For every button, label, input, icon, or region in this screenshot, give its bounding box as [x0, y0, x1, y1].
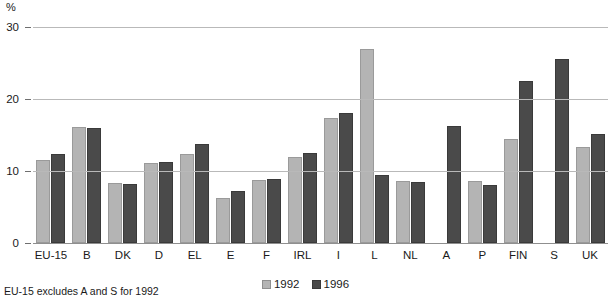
bar-F-1992: [252, 180, 266, 243]
gridline-10: [33, 171, 608, 172]
y-axis-unit-label: %: [6, 1, 16, 13]
bar-FIN-1996: [519, 81, 533, 243]
bar-group: [72, 27, 101, 243]
bar-A-1996: [447, 126, 461, 243]
x-axis-labels: EU-15BDKDELEFIRLILNLAPFINSUK: [33, 248, 608, 264]
bar-I-1996: [339, 113, 353, 243]
bar-S-1996: [555, 59, 569, 243]
legend-label: 1992: [274, 278, 300, 290]
y-tick-mark-20: [25, 99, 31, 100]
bar-group: [396, 27, 425, 243]
bar-P-1992: [468, 181, 482, 243]
bar-NL-1996: [411, 182, 425, 243]
x-axis-label-UK: UK: [567, 248, 611, 262]
gridline-30: [33, 27, 608, 28]
bar-I-1992: [324, 118, 338, 243]
bar-group: [504, 27, 533, 243]
y-tick-mark-10: [25, 171, 31, 172]
bar-group: [288, 27, 317, 243]
light-gray-swatch: [262, 280, 271, 289]
y-tick-mark-30: [25, 27, 31, 28]
y-tick-label-20: 20: [0, 93, 19, 105]
bar-EL-1992: [180, 154, 194, 243]
gridline-20: [33, 99, 608, 100]
bar-EU-15-1996: [51, 154, 65, 243]
legend-item-1996[interactable]: 1996: [312, 277, 350, 291]
bar-B-1996: [87, 128, 101, 243]
bar-FIN-1992: [504, 139, 518, 243]
bar-group: [252, 27, 281, 243]
bar-NL-1992: [396, 181, 410, 243]
bar-group: [36, 27, 65, 243]
bar-group: [144, 27, 173, 243]
bar-group: [540, 27, 569, 243]
bar-EL-1996: [195, 144, 209, 243]
plot-area: 0102030: [33, 27, 608, 243]
bar-group: [180, 27, 209, 243]
bar-P-1996: [483, 185, 497, 243]
bar-group: [432, 27, 461, 243]
bar-L-1992: [360, 49, 374, 243]
y-tick-mark-0: [25, 243, 31, 244]
y-tick-label-0: 0: [0, 237, 19, 249]
bar-D-1992: [144, 163, 158, 243]
bar-IRL-1992: [288, 157, 302, 243]
bar-group: [108, 27, 137, 243]
dark-gray-swatch: [312, 280, 321, 289]
bar-B-1992: [72, 127, 86, 243]
bar-group: [576, 27, 605, 243]
bar-chart: % 0102030 EU-15BDKDELEFIRLILNLAPFINSUK 1…: [0, 0, 611, 298]
bar-UK-1992: [576, 147, 590, 243]
chart-footnote: EU-15 excludes A and S for 1992: [4, 285, 159, 298]
bar-DK-1992: [108, 183, 122, 243]
gridline-0: [33, 243, 608, 244]
bar-group: [468, 27, 497, 243]
bar-F-1996: [267, 179, 281, 243]
bar-L-1996: [375, 175, 389, 243]
bar-DK-1996: [123, 184, 137, 243]
bar-groups: [33, 27, 608, 243]
legend-label: 1996: [324, 278, 350, 290]
bar-EU-15-1992: [36, 160, 50, 243]
y-tick-label-30: 30: [0, 21, 19, 33]
bar-E-1992: [216, 198, 230, 243]
bar-E-1996: [231, 191, 245, 243]
y-tick-label-10: 10: [0, 165, 19, 177]
bar-group: [216, 27, 245, 243]
bar-IRL-1996: [303, 153, 317, 243]
bar-group: [360, 27, 389, 243]
bar-D-1996: [159, 162, 173, 243]
bar-UK-1996: [591, 134, 605, 243]
legend-item-1992[interactable]: 1992: [262, 277, 300, 291]
bar-group: [324, 27, 353, 243]
